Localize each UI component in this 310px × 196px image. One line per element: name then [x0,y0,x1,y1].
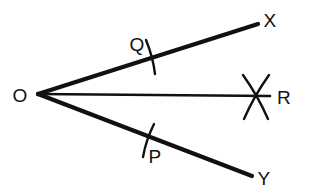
point-label-p: P [149,147,162,166]
point-label-o: O [12,86,27,105]
point-label-r: R [277,88,291,107]
ray-oy [38,94,252,176]
ray-or [38,94,270,96]
point-label-y: Y [258,169,271,188]
point-label-q: Q [129,35,144,54]
point-label-x: X [264,11,277,30]
diagram-canvas: O X R Y Q P [0,0,310,196]
ray-ox [38,24,258,94]
